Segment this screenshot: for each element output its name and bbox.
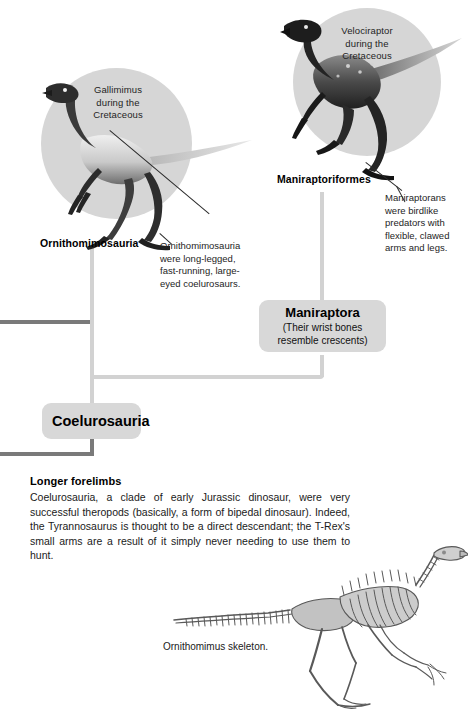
gallimimus-caption-line-1: Gallimimus (72, 84, 164, 97)
article-block: Longer forelimbs Coelurosauria, a clade … (30, 475, 350, 563)
connector-coelurosauria-lower-stem (90, 436, 94, 456)
taxon-label-ornithomimosauria[interactable]: Ornithomimosauria (40, 237, 139, 249)
note-line: predators with (385, 217, 468, 230)
clade-box-maniraptora-title: Maniraptora (273, 305, 372, 321)
article-heading: Longer forelimbs (30, 475, 350, 487)
connector-maniraptora-stem (320, 355, 324, 377)
taxon-label-maniraptoriformes[interactable]: Maniraptoriformes (277, 173, 371, 185)
connector-maniraptoriformes-vertical (320, 192, 324, 302)
velociraptor-caption-line-2: during the (320, 38, 414, 51)
note-line: arms and legs. (385, 242, 468, 255)
clade-box-coelurosauria-title: Coelurosauria (52, 411, 131, 431)
note-ornithomimosauria: Ornithomimosauria were long-legged, fast… (160, 240, 270, 290)
note-line: eyed coelurosaurs. (160, 278, 270, 291)
article-body: Coelurosauria, a clade of early Jurassic… (30, 490, 350, 563)
note-line: Maniraptorans (385, 192, 468, 205)
velociraptor-caption-line-3: Cretaceous (320, 50, 414, 63)
note-line: Ornithomimosauria (160, 240, 270, 253)
connector-ornithomimosauria-vertical (90, 247, 94, 379)
note-line: flexible, clawed (385, 230, 468, 243)
clade-box-maniraptora-subtitle-line-1: (Their wrist bones (273, 321, 372, 334)
gallimimus-caption-line-3: Cretaceous (72, 109, 164, 122)
ornithomimus-skeleton-illustration (172, 545, 468, 709)
gallimimus-caption: Gallimimus during the Cretaceous (72, 84, 164, 122)
clade-box-coelurosauria[interactable]: Coelurosauria (42, 403, 141, 439)
note-line: fast-running, large- (160, 265, 270, 278)
gallimimus-caption-line-2: during the (72, 97, 164, 110)
skeleton-caption: Ornithomimus skeleton. (163, 641, 268, 652)
note-maniraptorans: Maniraptorans were birdlike predators wi… (385, 192, 468, 255)
cladogram-page: Gallimimus during the Cretaceous (0, 0, 468, 709)
clade-box-maniraptora[interactable]: Maniraptora (Their wrist bones resemble … (259, 300, 386, 352)
velociraptor-caption: Velociraptor during the Cretaceous (320, 25, 414, 63)
clade-box-maniraptora-subtitle-line-2: resemble crescents) (273, 334, 372, 347)
note-line: were long-legged, (160, 253, 270, 266)
connector-horizontal-rail (90, 375, 324, 379)
note-line: were birdlike (385, 205, 468, 218)
velociraptor-caption-line-1: Velociraptor (320, 25, 414, 38)
